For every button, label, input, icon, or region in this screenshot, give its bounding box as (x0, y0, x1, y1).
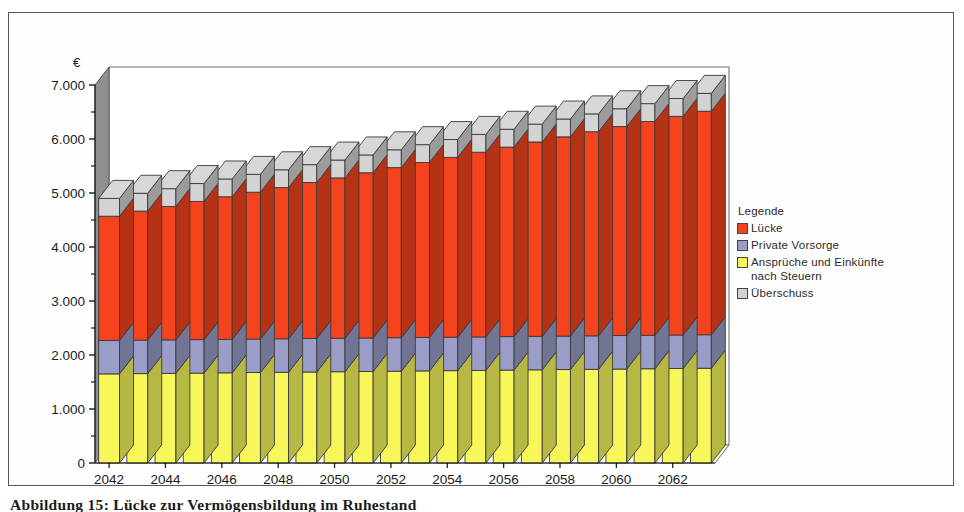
y-axis-tick-label: 7.000 (51, 78, 85, 93)
x-axis-tick-label: 2050 (320, 472, 350, 487)
bar-segment-side (317, 164, 331, 338)
bar-segment-side (120, 356, 134, 463)
bar-segment-front (99, 340, 120, 373)
legend-swatch (737, 257, 748, 268)
bar-segment-side (345, 354, 359, 463)
chart-legend: Legende LückePrivate VorsorgeAnsprüche u… (737, 205, 942, 303)
x-axis-tick-label: 2048 (263, 472, 293, 487)
x-axis-tick-label: 2062 (658, 472, 688, 487)
legend-item: Überschuss (737, 286, 942, 300)
bar-segment-side (260, 174, 274, 339)
bar-segment-side (570, 119, 584, 336)
bar-segment-side (232, 355, 246, 463)
bar-segment-side (655, 351, 669, 463)
bar-segment-side (542, 124, 556, 336)
bar-segment-side (514, 129, 528, 337)
x-axis-tick-label: 2054 (432, 472, 463, 487)
legend-item-label: Ansprüche und Einkünfte nach Steuern (751, 255, 884, 283)
bar-segment-side (373, 353, 387, 463)
bar-segment-side (655, 103, 669, 335)
bar-segment-side (176, 355, 190, 463)
bar-segment-side (683, 351, 697, 464)
legend-swatch (737, 240, 748, 251)
bar-segment-side (514, 352, 528, 463)
bar-segment-side (430, 353, 444, 463)
x-axis: 2042204420462048205020522054205620582060… (94, 463, 715, 487)
bar-segment-side (627, 109, 641, 336)
bar-segment-side (148, 356, 162, 463)
legend-item: Private Vorsorge (737, 238, 942, 252)
x-axis-tick-label: 2052 (376, 472, 406, 487)
bar-segment-side (458, 353, 472, 463)
bar-segment-side (373, 155, 387, 338)
bar-segment-side (599, 351, 613, 463)
legend-swatch (737, 288, 748, 299)
y-axis: 01.0002.0003.0004.0005.0006.0007.000€ (51, 55, 95, 471)
bar-segment-side (542, 352, 556, 463)
x-axis-tick-label: 2046 (207, 472, 237, 487)
bar-segment-side (401, 150, 415, 338)
bar-segment-side (683, 98, 697, 335)
bar-segment-side (570, 352, 584, 463)
legend-swatch (737, 223, 748, 234)
y-axis-tick-label: 5.000 (51, 186, 85, 201)
y-axis-tick-label: 6.000 (51, 132, 85, 147)
y-axis-tick-label: 0 (77, 456, 85, 471)
x-axis-tick-label: 2042 (94, 472, 124, 487)
bar-segment-side (711, 350, 725, 463)
figure-caption-text: Abbildung 15: Lücke zur Vermögensbildung… (10, 497, 950, 512)
x-axis-tick-label: 2044 (150, 472, 181, 487)
bar-segment-side (176, 189, 190, 340)
bar-segment-side (401, 353, 415, 463)
y-axis-tick-label: 2.000 (51, 348, 85, 363)
figure-frame: 01.0002.0003.0004.0005.0006.0007.000€204… (8, 12, 954, 486)
bar-segment-side (317, 354, 331, 463)
bar-segment-front (99, 374, 120, 463)
bar-segment-front (99, 198, 120, 216)
y-axis-tick-label: 3.000 (51, 294, 85, 309)
legend-item-label: Private Vorsorge (751, 238, 839, 252)
legend-item-label: Überschuss (751, 286, 814, 300)
bar-segment-side (345, 160, 359, 338)
y-axis-unit-label: € (73, 55, 81, 70)
legend-title: Legende (738, 205, 942, 217)
bar-column (99, 180, 134, 463)
bar-segment-side (458, 139, 472, 337)
bar-segment-side (289, 170, 303, 339)
bar-segment-side (148, 193, 162, 340)
bar-segment-side (599, 114, 613, 336)
bar-segment-side (711, 93, 725, 335)
legend-item: Lücke (737, 221, 942, 235)
bar-segment-side (627, 351, 641, 463)
legend-item-label: Lücke (751, 221, 783, 235)
y-axis-tick-label: 1.000 (51, 402, 85, 417)
legend-item: Ansprüche und Einkünfte nach Steuern (737, 255, 942, 283)
x-axis-tick-label: 2058 (545, 472, 575, 487)
y-axis-tick-label: 4.000 (51, 240, 85, 255)
bar-segment-side (486, 134, 500, 337)
bar-segment-side (120, 198, 134, 340)
bar-segment-side (204, 355, 218, 463)
bar-segment-front (99, 216, 120, 340)
bar-segment-side (260, 355, 274, 463)
bar-segment-side (430, 144, 444, 337)
x-axis-tick-label: 2056 (489, 472, 519, 487)
figure-caption-clipped: Abbildung 15: Lücke zur Vermögensbildung… (10, 497, 950, 512)
legend-item-list: LückePrivate VorsorgeAnsprüche und Einkü… (737, 221, 942, 300)
bar-segment-side (486, 352, 500, 463)
bar-segment-side (204, 183, 218, 339)
bar-segment-side (289, 354, 303, 463)
x-axis-tick-label: 2060 (601, 472, 631, 487)
bar-segment-side (232, 179, 246, 340)
